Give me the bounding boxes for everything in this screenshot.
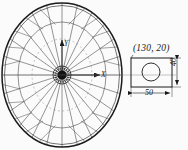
detail-rectangle: [131, 58, 172, 87]
detail-coordinate-label: (130, 20): [133, 44, 170, 54]
drawing-canvas: (130, 20) 50 40 X Y: [0, 0, 188, 150]
height-dimension-label: 40: [170, 58, 178, 66]
width-dimension-label: 50: [145, 89, 153, 97]
axis-y-label: Y: [64, 40, 68, 48]
technical-drawing-svg: [0, 0, 188, 150]
axis-x-label: X: [101, 71, 106, 79]
detail-hole-circle: [142, 63, 160, 81]
